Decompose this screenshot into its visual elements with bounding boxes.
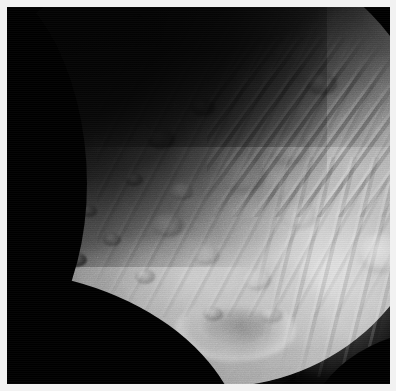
surface-grooves-upper bbox=[207, 37, 390, 217]
terminator-shadow bbox=[7, 7, 327, 267]
large-shallow-basin bbox=[175, 299, 295, 361]
phobos-body bbox=[7, 7, 390, 384]
crater bbox=[259, 307, 283, 323]
crater bbox=[243, 269, 271, 290]
crater bbox=[153, 213, 183, 237]
crater bbox=[269, 133, 309, 165]
crater bbox=[171, 183, 193, 200]
crater bbox=[219, 157, 265, 193]
surface-grooves bbox=[97, 17, 390, 317]
crater bbox=[157, 339, 183, 355]
regolith-mottling bbox=[7, 7, 390, 384]
crater bbox=[307, 73, 337, 95]
surface-grooves-right bbox=[257, 157, 390, 377]
crater bbox=[147, 129, 175, 149]
crater bbox=[77, 289, 103, 304]
crater bbox=[283, 203, 317, 229]
image-alt-text: Grayscale close-up of the cratered, groo… bbox=[7, 7, 8, 8]
bright-limb-crater-right bbox=[359, 233, 390, 273]
sunlit-limb-glow bbox=[27, 237, 327, 384]
basin-inner-shadow bbox=[203, 309, 269, 345]
bright-rimmed-limb-crater bbox=[31, 185, 53, 201]
image-viewport: Grayscale close-up of the cratered, groo… bbox=[0, 0, 396, 391]
crater bbox=[191, 99, 215, 116]
bright-terrain-patch bbox=[245, 177, 390, 377]
crater bbox=[81, 205, 97, 217]
space-mask-bottom-right bbox=[307, 329, 390, 384]
crater bbox=[103, 233, 121, 246]
crater bbox=[135, 269, 155, 284]
space-mask-bottom-left bbox=[7, 269, 247, 384]
crater bbox=[125, 173, 143, 186]
crater bbox=[115, 309, 137, 323]
crater bbox=[203, 307, 223, 321]
scanline-texture bbox=[7, 7, 390, 384]
space-background bbox=[7, 7, 390, 384]
terminator-upper-shadow bbox=[7, 7, 390, 147]
crater bbox=[193, 245, 219, 265]
regolith-grain bbox=[7, 7, 390, 384]
space-mask-left bbox=[7, 7, 87, 384]
photograph-frame: Grayscale close-up of the cratered, groo… bbox=[7, 7, 390, 384]
crater bbox=[65, 253, 87, 267]
